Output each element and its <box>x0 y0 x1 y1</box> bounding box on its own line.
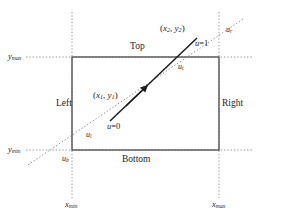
diagram-vector-layer <box>0 0 281 222</box>
axis-label-y-min: ymin <box>8 145 20 155</box>
clipping-window-rect <box>72 57 219 150</box>
param-label-u-right: ur <box>226 26 232 35</box>
edge-label-left: Left <box>56 99 72 109</box>
param-label-u-zero: u=0 <box>107 122 120 131</box>
param-label-u-left: ul <box>86 131 92 140</box>
param-label-u-top: ut <box>178 63 184 72</box>
axis-label-x-min: xmin <box>65 200 77 210</box>
edge-label-right: Right <box>222 99 243 109</box>
line-segment-p1-p2 <box>110 38 197 121</box>
figure-canvas: ymax ymin xmin xmax Top Bottom Left Righ… <box>0 0 281 222</box>
param-label-u-bottom: ub <box>62 155 69 164</box>
direction-arrow-icon <box>126 85 148 106</box>
edge-label-top: Top <box>130 42 145 52</box>
axis-label-x-max: xmax <box>212 200 225 210</box>
edge-label-bottom: Bottom <box>122 155 151 165</box>
axis-label-y-max: ymax <box>8 52 21 62</box>
endpoint-label-p2: (x2, y2) <box>160 24 185 33</box>
param-label-u-one: u=1 <box>195 39 208 48</box>
endpoint-label-p1: (x1, y1) <box>93 91 118 100</box>
